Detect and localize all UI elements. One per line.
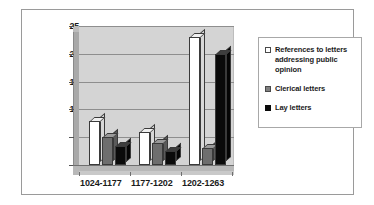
y-axis-tick-mark [69,54,74,55]
bar-face [189,37,200,165]
y-axis-tick-mark [69,109,74,110]
legend-item-label: References to letters addressing public … [275,45,356,75]
y-axis-tick-mark [69,137,74,138]
bar-face [165,151,176,165]
bar-series2-cat3 [202,148,213,165]
gridline [79,54,234,55]
bar-side [226,46,231,161]
x-axis-line [73,165,234,166]
legend-item-label: Lay letters [275,103,311,113]
y-axis-tick-mark [69,26,74,27]
bar-series1-cat3 [189,37,200,165]
plot-floor-face [79,171,234,175]
legend-item-lay: Lay letters [265,103,356,113]
bar-series1-cat2 [139,132,150,165]
bar-series3-cat1 [115,146,126,166]
legend-item-references: References to letters addressing public … [265,45,356,75]
white-square-icon [265,47,271,53]
bar-face [115,146,126,166]
chart-figure: 25 20 15 10 5 0 [0,0,374,205]
x-axis-tick-mark [79,172,80,176]
x-axis-tick-mark [130,172,131,176]
bar-side [200,29,205,161]
gridline [79,82,234,83]
legend-item-label: Clerical letters [275,84,325,94]
bar-face [89,121,100,166]
gridline [79,109,234,110]
bar-series2-cat1 [102,137,113,165]
bar-series3-cat2 [165,151,176,165]
chart-frame: 25 20 15 10 5 0 [21,9,354,195]
x-axis-tick-label-1: 1024-1177 [80,178,122,188]
gridline [79,26,234,27]
plot-region: 25 20 15 10 5 0 [51,22,241,190]
chart-legend: References to letters addressing public … [258,37,362,128]
bar-face [152,143,163,165]
y-axis-tick-mark [69,82,74,83]
x-axis-tick-mark [232,172,233,176]
x-axis-tick-mark [181,172,182,176]
bar-face [102,137,113,165]
bar-face [202,148,213,165]
x-axis-tick-label-2: 1177-1202 [131,178,173,188]
legend-item-clerical: Clerical letters [265,84,356,94]
bar-side [126,137,131,161]
bar-series1-cat1 [89,121,100,166]
bar-series3-cat3 [215,54,226,165]
bar-series2-cat2 [152,143,163,165]
gray-square-icon [265,86,271,92]
black-square-icon [265,105,271,111]
bar-face [215,54,226,165]
bar-face [139,132,150,165]
x-axis-tick-label-3: 1202-1263 [182,178,224,188]
